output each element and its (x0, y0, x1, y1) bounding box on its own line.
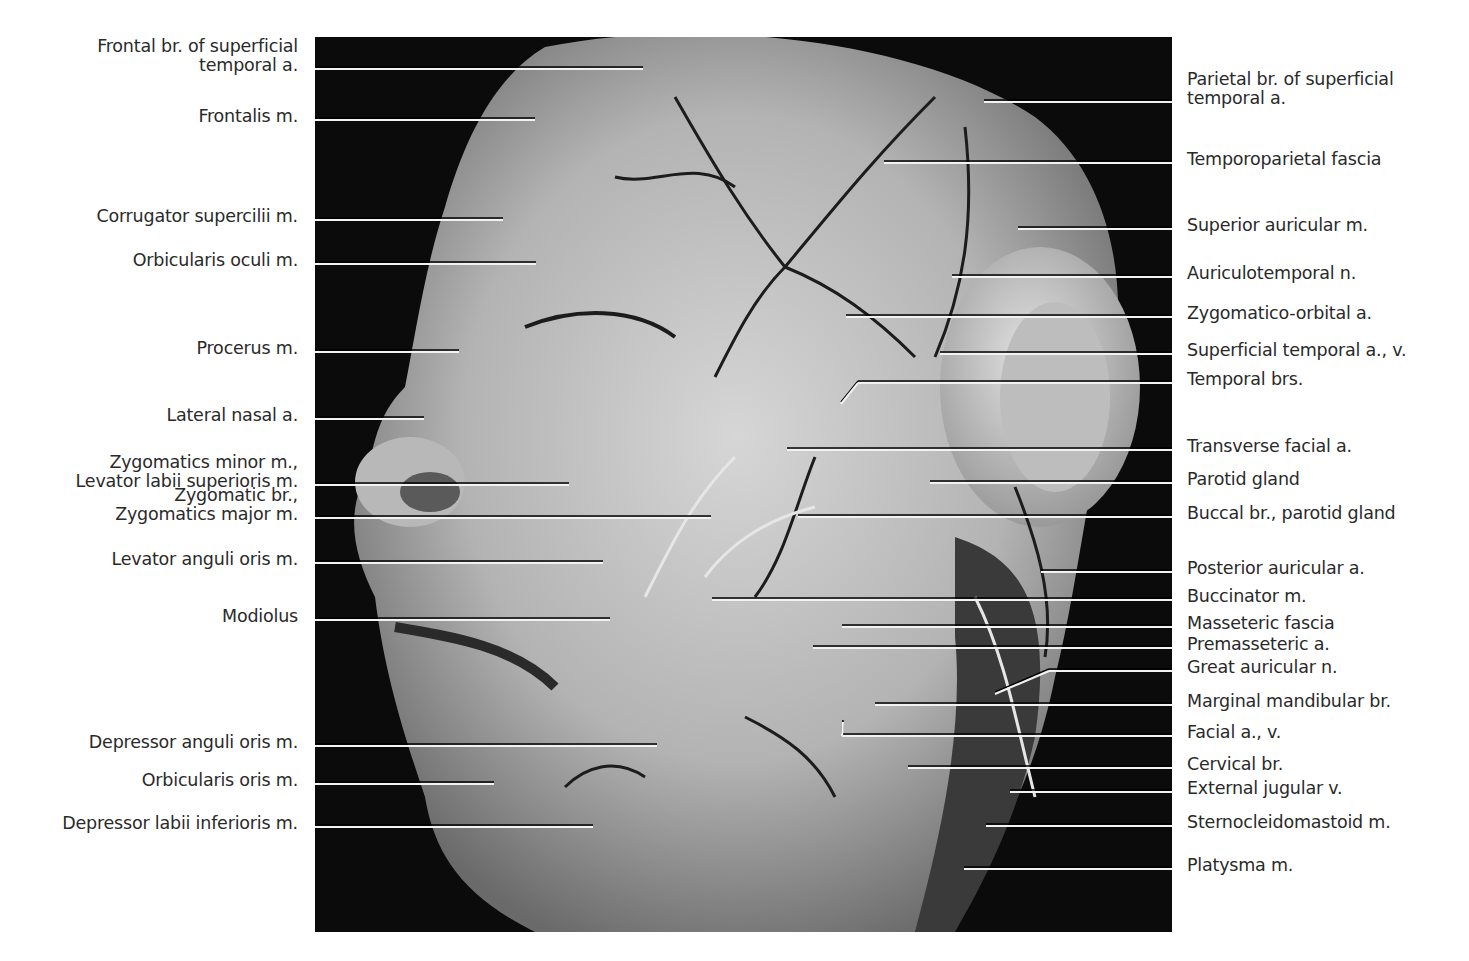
label-external-jugular-v: External jugular v. (1187, 779, 1342, 798)
label-temporal-brs: Temporal brs. (1187, 370, 1303, 389)
label-marginal-mandibular-br: Marginal mandibular br. (1187, 692, 1391, 711)
label-platysma-m: Platysma m. (1187, 856, 1293, 875)
label-orbicularis-oris-m: Orbicularis oris m. (142, 771, 298, 790)
label-facial-a-v: Facial a., v. (1187, 723, 1281, 742)
label-orbicularis-oculi-m: Orbicularis oculi m. (133, 251, 298, 270)
label-zygomatico-orbital-a: Zygomatico-orbital a. (1187, 304, 1372, 323)
label-parietal-br-of-superficial-temporal-a: Parietal br. of superficial temporal a. (1187, 70, 1394, 108)
label-transverse-facial-a: Transverse facial a. (1187, 437, 1352, 456)
head-specimen-illustration (315, 37, 1172, 932)
dissection-photograph (315, 37, 1172, 932)
label-cervical-br: Cervical br. (1187, 755, 1283, 774)
label-modiolus: Modiolus (222, 607, 298, 626)
label-superior-auricular-m: Superior auricular m. (1187, 216, 1368, 235)
label-posterior-auricular-a: Posterior auricular a. (1187, 559, 1365, 578)
label-sternocleidomastoid-m: Sternocleidomastoid m. (1187, 813, 1391, 832)
label-temporoparietal-fascia: Temporoparietal fascia (1187, 150, 1381, 169)
label-corrugator-supercilii-m: Corrugator supercilii m. (96, 207, 298, 226)
label-zygomatic-br-zygomatics-major-m: Zygomatic br., Zygomatics major m. (115, 486, 298, 524)
label-depressor-labii-inferioris-m: Depressor labii inferioris m. (62, 814, 298, 833)
label-buccinator-m: Buccinator m. (1187, 587, 1306, 606)
label-parotid-gland: Parotid gland (1187, 470, 1300, 489)
label-auriculotemporal-n: Auriculotemporal n. (1187, 264, 1356, 283)
label-buccal-br-parotid-gland: Buccal br., parotid gland (1187, 504, 1396, 523)
label-frontalis-m: Frontalis m. (198, 107, 298, 126)
label-masseteric-fascia: Masseteric fascia (1187, 614, 1335, 633)
label-procerus-m: Procerus m. (196, 339, 298, 358)
label-superficial-temporal-a-v: Superficial temporal a., v. (1187, 341, 1406, 360)
label-great-auricular-n: Great auricular n. (1187, 658, 1337, 677)
label-levator-anguli-oris-m: Levator anguli oris m. (111, 550, 298, 569)
label-frontal-br-of-superficial-temporal-a: Frontal br. of superficial temporal a. (97, 37, 298, 75)
label-depressor-anguli-oris-m: Depressor anguli oris m. (89, 733, 298, 752)
label-lateral-nasal-a: Lateral nasal a. (166, 406, 298, 425)
label-premasseteric-a: Premasseteric a. (1187, 635, 1330, 654)
